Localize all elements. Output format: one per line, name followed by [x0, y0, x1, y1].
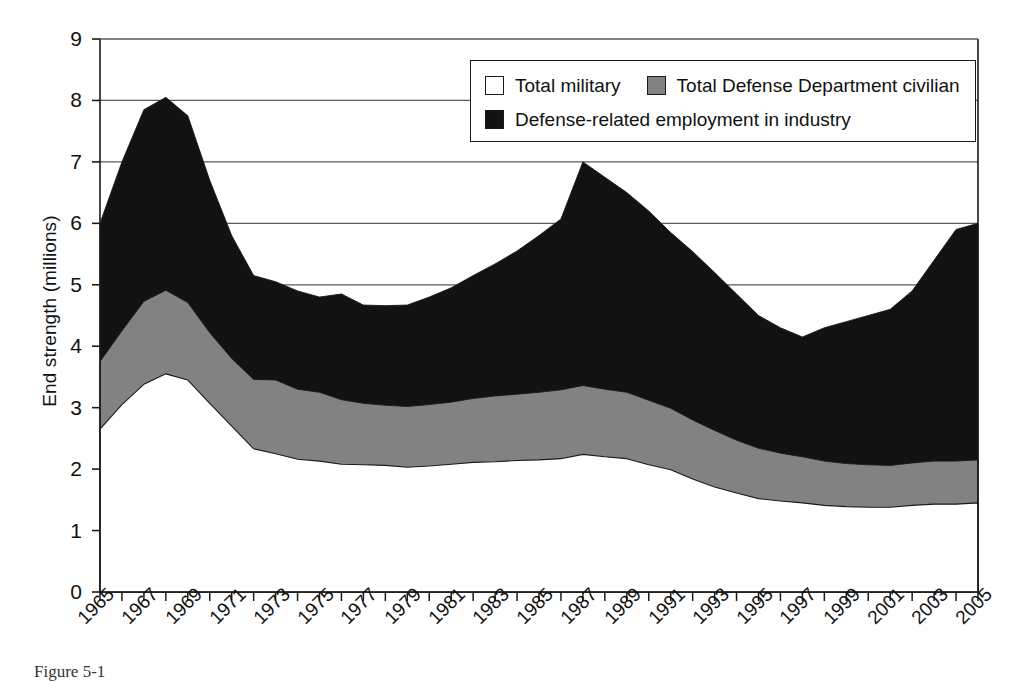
- legend-item-defense-industry[interactable]: Defense-related employment in industry: [485, 110, 851, 129]
- white-swatch-icon: [485, 76, 504, 95]
- legend-label-total-military: Total military: [515, 76, 621, 95]
- legend-item-total-military[interactable]: Total military: [485, 76, 621, 95]
- y-tick-label-1: 1: [48, 520, 82, 541]
- legend-item-dod-civilian[interactable]: Total Defense Department civilian: [647, 76, 960, 95]
- y-tick-label-0: 0: [48, 581, 82, 602]
- gray-swatch-icon: [647, 76, 666, 95]
- y-tick-label-6: 6: [48, 212, 82, 233]
- figure-container: End strength (millions) 0123456789 19651…: [0, 0, 1018, 681]
- y-tick-label-2: 2: [48, 458, 82, 479]
- black-swatch-icon: [485, 110, 504, 129]
- chart-legend[interactable]: Total military Total Defense Department …: [470, 60, 976, 142]
- y-tick-label-7: 7: [48, 151, 82, 172]
- y-tick-label-9: 9: [48, 28, 82, 49]
- legend-row-1: Total military Total Defense Department …: [485, 68, 975, 102]
- y-tick-label-3: 3: [48, 397, 82, 418]
- y-tick-label-5: 5: [48, 274, 82, 295]
- figure-caption: Figure 5-1: [34, 662, 105, 681]
- legend-row-2: Defense-related employment in industry: [485, 102, 975, 136]
- area-series-group: [100, 97, 978, 592]
- legend-label-defense-industry: Defense-related employment in industry: [515, 110, 851, 129]
- y-tick-label-4: 4: [48, 335, 82, 356]
- legend-label-dod-civilian: Total Defense Department civilian: [677, 76, 960, 95]
- y-tick-label-8: 8: [48, 89, 82, 110]
